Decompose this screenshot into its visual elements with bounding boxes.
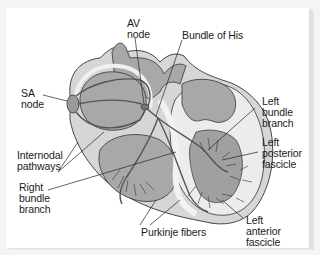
label-av-node: AV node [127, 18, 150, 40]
label-bundle-of-his: Bundle of His [182, 30, 243, 41]
sa-node [67, 95, 79, 113]
label-purkinje-fibers: Purkinje fibers [141, 227, 206, 238]
label-internodal-pathways: Internodal pathways [17, 150, 63, 172]
label-left-posterior-fascicle: Left posterior fascicle [262, 137, 302, 170]
label-left-bundle-branch: Left bundle branch [262, 96, 294, 129]
right-ventricle [99, 135, 177, 202]
label-left-anterior-fascicle: Left anterior fascicle [246, 215, 281, 248]
label-right-bundle-branch: Right bundle branch [19, 182, 51, 215]
label-sa-node: SA node [21, 88, 44, 110]
